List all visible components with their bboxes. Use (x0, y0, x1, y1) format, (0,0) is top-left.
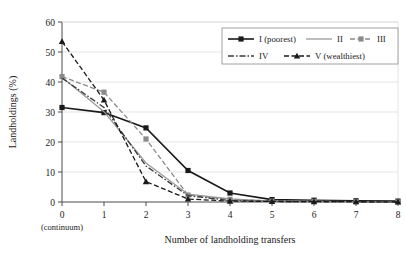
data-point-marker (59, 105, 64, 110)
x-tick-label: 3 (186, 210, 191, 220)
x-axis-continuum-label: (continuum) (41, 222, 83, 232)
series-line (62, 77, 398, 202)
data-point-marker (143, 178, 149, 184)
data-point-marker (185, 168, 190, 173)
data-point-marker (358, 36, 363, 41)
data-point-marker (143, 136, 148, 141)
data-point-marker (227, 190, 232, 195)
series-line (62, 77, 398, 202)
line-chart: 0102030405060 012345678 (continuum) Numb… (0, 0, 406, 263)
x-tick-label: 5 (270, 210, 275, 220)
legend-border (222, 28, 398, 64)
x-tick-label: 8 (396, 210, 401, 220)
y-tick-labels: 0102030405060 (46, 18, 56, 208)
series-2 (62, 77, 398, 202)
x-tick-label: 0 (60, 210, 65, 220)
legend-label: II (337, 34, 343, 44)
legend-label: I (poorest) (259, 34, 296, 44)
y-tick-label: 60 (46, 18, 56, 28)
y-tick-label: 0 (50, 198, 55, 208)
series-line (62, 78, 398, 202)
chart-legend: I (poorest)IIIIIIVV (wealthiest) (222, 28, 398, 64)
y-tick-marks (58, 22, 62, 202)
legend-label: III (377, 34, 386, 44)
series-4 (62, 78, 398, 202)
legend-label: IV (259, 51, 269, 61)
series-3 (59, 74, 400, 205)
x-tick-label: 2 (144, 210, 149, 220)
x-tick-label: 4 (228, 210, 233, 220)
data-point-marker (59, 38, 65, 44)
x-tick-labels: 012345678 (60, 210, 401, 220)
y-axis-title: Landholdings (%) (7, 76, 19, 149)
data-point-marker (238, 36, 243, 41)
data-point-marker (101, 90, 106, 95)
y-tick-label: 10 (46, 168, 56, 178)
data-point-marker (143, 125, 148, 130)
chart-container: 0102030405060 012345678 (continuum) Numb… (0, 0, 406, 263)
x-axis-title: Number of landholding transfers (165, 234, 296, 245)
y-tick-label: 50 (46, 48, 56, 58)
legend-label: V (wealthiest) (315, 51, 365, 61)
y-tick-label: 20 (46, 138, 56, 148)
x-tick-label: 7 (354, 210, 359, 220)
y-tick-label: 30 (46, 108, 56, 118)
x-tick-label: 6 (312, 210, 317, 220)
y-tick-label: 40 (46, 78, 56, 88)
x-tick-label: 1 (102, 210, 107, 220)
